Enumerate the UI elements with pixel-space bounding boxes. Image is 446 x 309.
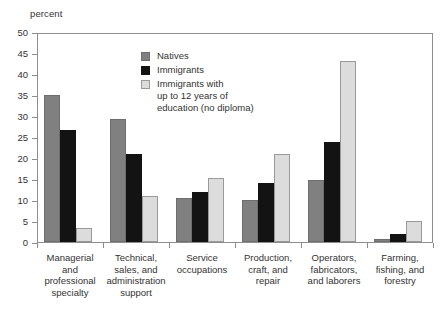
y-axis-tick-label: 15 bbox=[17, 174, 28, 185]
bar bbox=[44, 95, 60, 242]
bar-group bbox=[38, 34, 104, 242]
bar bbox=[390, 234, 406, 242]
y-axis-tick-label: 35 bbox=[17, 90, 28, 101]
bar bbox=[308, 180, 324, 242]
bar bbox=[76, 228, 92, 242]
bar bbox=[176, 198, 192, 242]
bar bbox=[258, 183, 274, 242]
occupation-distribution-bar-chart: percent 05101520253035404550 Managerial … bbox=[0, 0, 446, 309]
x-axis-category-label: Managerial and professional specialty bbox=[37, 252, 103, 298]
x-axis-tick-mark bbox=[103, 243, 104, 248]
chart-legend: NativesImmigrantsImmigrants with up to 1… bbox=[141, 50, 254, 116]
x-axis-category-label: Technical, sales, and administration sup… bbox=[103, 252, 169, 298]
legend-swatch bbox=[141, 66, 150, 75]
bar bbox=[60, 130, 76, 242]
bar-group bbox=[302, 34, 368, 242]
y-axis-tick-label: 5 bbox=[23, 216, 28, 227]
bar bbox=[110, 119, 126, 242]
y-axis-tick-label: 50 bbox=[17, 27, 28, 38]
bar bbox=[242, 200, 258, 242]
x-axis-tick-mark bbox=[235, 243, 236, 248]
legend-item: Natives bbox=[141, 50, 254, 62]
x-axis-category-label: Farming, fishing, and forestry bbox=[367, 252, 433, 287]
bar bbox=[340, 61, 356, 242]
y-axis-tick-label: 40 bbox=[17, 69, 28, 80]
bar bbox=[192, 192, 208, 242]
legend-swatch bbox=[141, 80, 150, 89]
bar bbox=[324, 142, 340, 242]
legend-item: Immigrants with up to 12 years of educat… bbox=[141, 78, 254, 114]
legend-label: Immigrants with up to 12 years of educat… bbox=[157, 78, 254, 114]
x-axis-category-label: Operators, fabricators, and laborers bbox=[301, 252, 367, 287]
bar bbox=[406, 221, 422, 242]
legend-item: Immigrants bbox=[141, 64, 254, 76]
legend-label: Natives bbox=[157, 50, 189, 62]
bar-group bbox=[368, 34, 434, 242]
legend-swatch bbox=[141, 52, 150, 61]
x-axis-tick-mark bbox=[433, 243, 434, 248]
y-axis-tick-label: 25 bbox=[17, 132, 28, 143]
bar bbox=[374, 239, 390, 242]
bar bbox=[126, 154, 142, 242]
x-axis-tick-mark bbox=[37, 243, 38, 248]
y-axis-tick-label: 45 bbox=[17, 48, 28, 59]
y-axis-tick-label: 0 bbox=[23, 237, 28, 248]
y-axis-tick-label: 20 bbox=[17, 153, 28, 164]
y-axis-tick-label: 10 bbox=[17, 195, 28, 206]
x-axis-tick-mark bbox=[169, 243, 170, 248]
legend-label: Immigrants bbox=[157, 64, 204, 76]
x-axis-tick-mark bbox=[301, 243, 302, 248]
y-axis-unit-label: percent bbox=[30, 8, 62, 19]
bar bbox=[208, 178, 224, 242]
x-axis-category-label: Service occupations bbox=[169, 252, 235, 275]
x-axis-tick-mark bbox=[367, 243, 368, 248]
bar bbox=[274, 154, 290, 242]
y-axis-tick-label: 30 bbox=[17, 111, 28, 122]
bar bbox=[142, 196, 158, 242]
x-axis-category-label: Production, craft, and repair bbox=[235, 252, 301, 287]
